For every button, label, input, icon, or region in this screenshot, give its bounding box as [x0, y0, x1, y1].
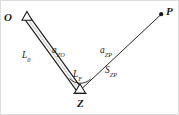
- segment-Z-P: [83, 15, 161, 88]
- segment-Z-P-line: [83, 15, 161, 88]
- segment-label-aZO: aZO: [52, 46, 65, 56]
- station-marker-O: [22, 11, 32, 20]
- triangle-icon: [22, 11, 32, 20]
- subscript: ZO: [57, 51, 65, 58]
- point-marker-P: [159, 12, 163, 16]
- dot-icon: [159, 12, 163, 16]
- survey-geometry-figure: O P Z L0 aZO aZP SZP LF: [0, 0, 179, 115]
- point-label-Z: Z: [77, 98, 84, 109]
- point-label-P: P: [166, 6, 173, 17]
- subscript: F: [78, 75, 82, 82]
- subscript: 0: [27, 56, 30, 63]
- segment-label-aZP: aZP: [100, 46, 112, 56]
- segment-O-Z-edge-left: [25, 20, 78, 93]
- segment-label-SZP: SZP: [105, 66, 117, 76]
- subscript: ZP: [110, 71, 117, 78]
- segment-label-L0: L0: [22, 51, 30, 61]
- point-label-O: O: [4, 12, 12, 23]
- subscript: ZP: [105, 51, 112, 58]
- angle-label-LF: LF: [73, 70, 82, 80]
